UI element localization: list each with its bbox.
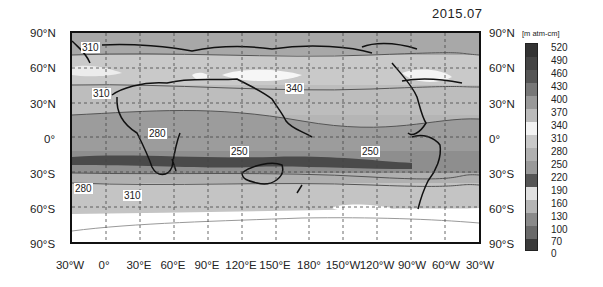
colorbar-label: 460	[551, 69, 568, 79]
x-tick: 0°	[99, 259, 110, 271]
x-tick: 30°W	[466, 259, 494, 271]
chart-title: 2015.07	[432, 6, 483, 21]
colorbar-label: 250	[551, 160, 568, 170]
y-tick-right: 30°S	[489, 168, 514, 180]
x-tick: 60°E	[160, 259, 185, 271]
x-tick: 90°W	[398, 259, 426, 271]
colorbar-units: [m atm-cm]	[522, 29, 560, 38]
y-tick-left: 30°S	[30, 168, 55, 180]
colorbar-label: 280	[551, 147, 568, 157]
y-tick-left: 30°N	[30, 98, 56, 110]
colorbar-label: 0	[551, 249, 557, 259]
x-tick: 60°W	[432, 259, 460, 271]
y-tick-left: 60°N	[30, 62, 56, 74]
y-tick-right: 30°N	[489, 98, 515, 110]
colorbar-label: 220	[551, 173, 568, 183]
x-tick: 150°E	[259, 259, 290, 271]
y-tick-right: 90°N	[489, 27, 515, 39]
colorbar-label: 70	[551, 237, 562, 247]
y-tick-left: 90°N	[30, 27, 56, 39]
x-tick: 150°W	[326, 259, 361, 271]
contour-label: 340	[285, 83, 304, 94]
map-plot-area: 310 310 340 280 250 250 280 310	[70, 31, 481, 244]
y-tick-left: 60°S	[30, 203, 55, 215]
y-tick-left: 90°S	[30, 238, 55, 250]
contour-label: 310	[123, 190, 142, 201]
x-tick: 120°W	[360, 259, 395, 271]
contour-label: 250	[361, 146, 380, 157]
colorbar-label: 100	[551, 225, 568, 235]
colorbar-label: 520	[551, 43, 568, 53]
x-tick: 30°W	[56, 259, 84, 271]
contour-label: 310	[81, 42, 100, 53]
contour-label: 280	[148, 128, 167, 139]
contour-label: 250	[230, 146, 249, 157]
y-tick-left: 0°	[44, 133, 55, 145]
colorbar-label: 130	[551, 212, 568, 222]
y-tick-right: 60°S	[489, 203, 514, 215]
colorbar-label: 370	[551, 108, 568, 118]
x-tick: 120°E	[225, 259, 256, 271]
y-tick-right: 0°	[489, 133, 500, 145]
colorbar-label: 310	[551, 134, 568, 144]
ozone-contour-map	[72, 33, 479, 242]
x-tick: 180°	[297, 259, 321, 271]
colorbar	[525, 43, 538, 251]
y-tick-right: 60°N	[489, 62, 515, 74]
y-tick-right: 90°S	[489, 238, 514, 250]
contour-label: 310	[92, 88, 111, 99]
colorbar-label: 340	[551, 121, 568, 131]
colorbar-label: 430	[551, 82, 568, 92]
colorbar-label: 400	[551, 95, 568, 105]
x-tick: 90°E	[194, 259, 219, 271]
colorbar-label: 490	[551, 56, 568, 66]
colorbar-label: 160	[551, 199, 568, 209]
x-tick: 30°E	[126, 259, 151, 271]
contour-label: 280	[74, 183, 93, 194]
colorbar-label: 190	[551, 186, 568, 196]
